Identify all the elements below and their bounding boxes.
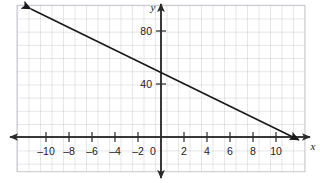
x-tick-label--8: –8 [63,145,75,157]
x-tick-label--4: –4 [109,145,121,157]
x-tick-label--10: –10 [37,145,55,157]
coordinate-plane-graph: –10 –8 –6 –4 –2 0 2 4 6 8 10 40 80 x y [0,0,320,183]
x-axis-label: x [310,140,316,152]
x-tick-label-2: 2 [181,145,187,157]
x-tick-label--6: –6 [86,145,98,157]
x-tick-label--2: –2 [132,145,144,157]
x-tick-label-8: 8 [250,145,256,157]
y-axis-label: y [150,1,156,13]
x-tick-label-6: 6 [227,145,233,157]
graph-figure: –10 –8 –6 –4 –2 0 2 4 6 8 10 40 80 x y [0,0,320,183]
y-tick-label-40: 40 [140,78,152,90]
x-tick-label-10: 10 [270,145,282,157]
x-tick-label-0: 0 [150,145,156,157]
x-tick-label-4: 4 [204,145,210,157]
y-tick-label-80: 80 [140,25,152,37]
